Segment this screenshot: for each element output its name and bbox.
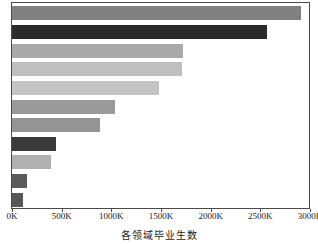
x-tick-label: 1000K	[99, 211, 124, 221]
bar	[12, 25, 267, 39]
x-tick-label: 0K	[7, 211, 18, 221]
bar	[12, 155, 51, 169]
bar-chart: 0K500K1000K1500K2000K2500K3000K 各领域毕业生数	[0, 0, 318, 244]
x-tick-label: 3000K	[298, 211, 318, 221]
bar	[12, 118, 100, 132]
x-axis-title: 各领域毕业生数	[0, 227, 318, 242]
x-tick-label: 2000K	[198, 211, 223, 221]
bar	[12, 62, 182, 76]
x-tick-label: 500K	[52, 211, 72, 221]
bar	[12, 100, 115, 114]
bar	[12, 193, 23, 207]
bars-layer	[12, 3, 309, 208]
x-tick-label: 1500K	[149, 211, 174, 221]
bar	[12, 81, 159, 95]
bar	[12, 44, 183, 58]
plot-area	[11, 2, 310, 209]
x-tick-label: 2500K	[248, 211, 273, 221]
bar	[12, 174, 27, 188]
bar	[12, 137, 56, 151]
bar	[12, 6, 301, 20]
